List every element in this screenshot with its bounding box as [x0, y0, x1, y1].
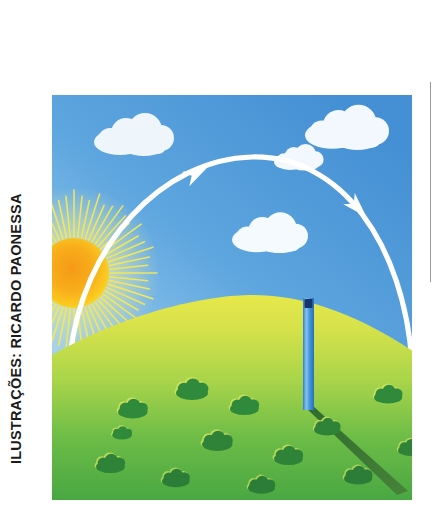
gnomon-pole: [303, 298, 314, 410]
gnomon-cap: [305, 299, 313, 308]
illustration-panel: [52, 95, 412, 500]
illustration-canvas: [52, 95, 412, 500]
page-margin-rule: [430, 82, 431, 282]
gnomon-body: [303, 298, 314, 410]
illustration-credit: ILUSTRAÇÕES: RICARDO PAONESSA: [8, 24, 24, 464]
illustration-page: ILUSTRAÇÕES: RICARDO PAONESSA: [0, 0, 436, 508]
credit-container: ILUSTRAÇÕES: RICARDO PAONESSA: [0, 0, 30, 508]
